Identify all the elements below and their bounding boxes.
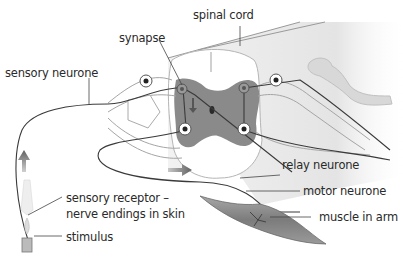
label-spinal-cord: spinal cord: [193, 9, 254, 22]
label-stimulus: stimulus: [66, 231, 113, 244]
ganglion: [128, 95, 160, 128]
label-muscle-in-arm: muscle in arm: [319, 211, 398, 224]
label-sensory-neurone: sensory neurone: [5, 67, 98, 80]
reflex-arc-diagram: [0, 0, 409, 265]
label-motor-neurone: motor neurone: [303, 185, 386, 198]
stimulus-flame-icon: [21, 180, 33, 252]
label-nerve-endings: nerve endings in skin: [66, 208, 185, 221]
impulse-arrow-up-icon: [18, 150, 30, 172]
label-sensory-receptor: sensory receptor –: [66, 192, 169, 205]
label-synapse: synapse: [119, 32, 165, 45]
label-relay-neurone: relay neurone: [282, 159, 359, 172]
